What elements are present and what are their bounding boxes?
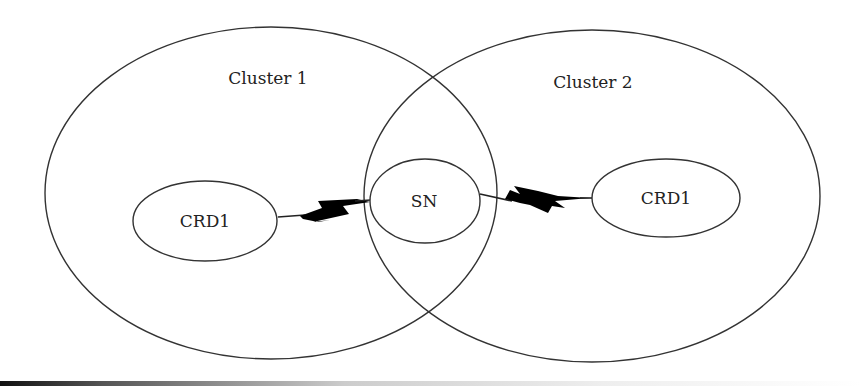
node-sn-label: SN bbox=[411, 191, 438, 211]
lightning-bolt-icon bbox=[300, 199, 370, 222]
node-crd1-left: CRD1 bbox=[133, 181, 277, 261]
cluster-2-label: Cluster 2 bbox=[553, 72, 632, 92]
bottom-border-bar bbox=[0, 381, 861, 386]
lightning-bolt-icon bbox=[505, 186, 590, 213]
node-sn: SN bbox=[370, 159, 480, 243]
lightning-link-left bbox=[278, 199, 371, 222]
node-crd1-left-label: CRD1 bbox=[180, 211, 230, 231]
link-line-left-b bbox=[355, 200, 371, 201]
cluster-diagram: Cluster 1 Cluster 2 CRD1 SN CRD1 bbox=[0, 0, 861, 386]
node-crd1-right-label: CRD1 bbox=[641, 188, 691, 208]
cluster-1-label: Cluster 1 bbox=[228, 68, 307, 88]
node-crd1-right: CRD1 bbox=[592, 159, 740, 237]
